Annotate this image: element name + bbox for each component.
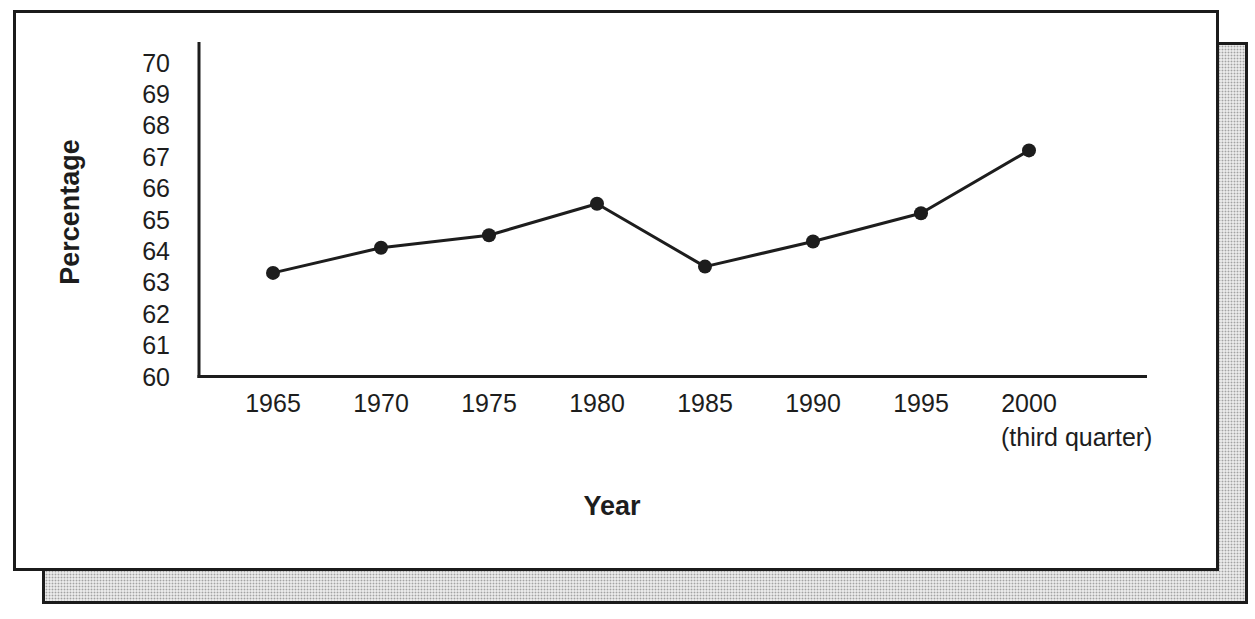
data-point (482, 228, 496, 242)
data-point (266, 266, 280, 280)
x-axis-title: Year (583, 491, 641, 521)
y-tick-label: 67 (142, 143, 170, 171)
data-point (698, 260, 712, 274)
data-point (914, 206, 928, 220)
x-tick-sublabel: (third quarter) (1001, 423, 1152, 451)
y-tick-label: 70 (142, 49, 170, 77)
y-tick-label: 61 (142, 331, 170, 359)
data-point (374, 241, 388, 255)
x-tick-label: 1970 (353, 389, 409, 417)
line-chart: 6061626364656667686970196519701975198019… (0, 0, 1255, 619)
data-point (590, 197, 604, 211)
x-tick-label: 1990 (785, 389, 841, 417)
data-point (806, 234, 820, 248)
x-tick-label: 1965 (245, 389, 301, 417)
y-tick-label: 64 (142, 237, 170, 265)
x-tick-label: 1980 (569, 389, 625, 417)
y-tick-label: 66 (142, 174, 170, 202)
x-tick-label: 1995 (893, 389, 949, 417)
y-tick-label: 60 (142, 363, 170, 391)
y-tick-label: 69 (142, 80, 170, 108)
y-tick-label: 63 (142, 268, 170, 296)
x-tick-label: 1985 (677, 389, 733, 417)
figure: 6061626364656667686970196519701975198019… (0, 0, 1255, 619)
y-axis-title: Percentage (55, 139, 85, 285)
x-tick-label: 2000 (1001, 389, 1057, 417)
y-tick-label: 65 (142, 206, 170, 234)
y-tick-label: 62 (142, 300, 170, 328)
y-tick-label: 68 (142, 111, 170, 139)
x-tick-label: 1975 (461, 389, 517, 417)
data-point (1022, 143, 1036, 157)
